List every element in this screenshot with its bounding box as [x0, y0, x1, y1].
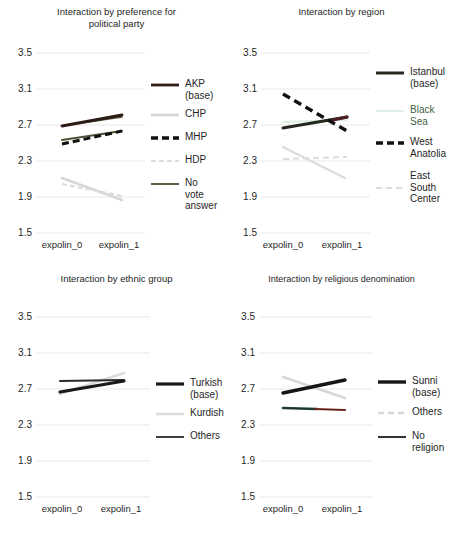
- legend-item-kurdish[interactable]: Kurdish: [155, 407, 224, 420]
- legend-label: East South Center: [410, 170, 440, 205]
- legend-label: No vote answer: [185, 177, 217, 212]
- y-tick-label: 1.5: [231, 227, 257, 238]
- gridlines: [36, 53, 145, 233]
- legend-label: CHP: [185, 108, 206, 120]
- gridlines: [259, 317, 373, 497]
- legend-item-istanbul[interactable]: Istanbul (base): [375, 66, 445, 89]
- legend-label: Sunni (base): [412, 375, 440, 398]
- plot-svg: [225, 267, 450, 534]
- legend-swatch-solid: [377, 431, 407, 443]
- y-tick-label: 3.1: [6, 347, 32, 358]
- legend-label: HDP: [185, 154, 206, 166]
- plot-svg: [225, 0, 450, 267]
- legend-swatch-solid: [150, 178, 180, 190]
- y-tick-label: 3.1: [229, 347, 255, 358]
- legend-item-chp[interactable]: CHP: [150, 108, 206, 121]
- y-tick-label: 1.9: [229, 455, 255, 466]
- plot-area: [0, 267, 225, 534]
- legend-label: Turkish (base): [190, 377, 222, 400]
- y-tick-label: 3.1: [6, 83, 32, 94]
- legend-swatch-solid: [375, 105, 405, 117]
- series-others: [60, 380, 124, 381]
- y-tick-label: 2.3: [231, 155, 257, 166]
- legend-label: West Anatolia: [410, 136, 446, 159]
- legend-item-turkish[interactable]: Turkish (base): [155, 377, 222, 400]
- y-tick-label: 1.9: [6, 455, 32, 466]
- legend-label: Istanbul (base): [410, 66, 445, 89]
- legend-item-no-vote-answer[interactable]: No vote answer: [150, 177, 217, 212]
- x-tick-label: expolin_0: [36, 239, 88, 250]
- plot-svg: [0, 267, 225, 534]
- legend-label: No religion: [412, 430, 444, 453]
- series-no-religion: [283, 408, 345, 410]
- legend-item-hdp[interactable]: HDP: [150, 154, 206, 167]
- legend-label: Others: [190, 430, 220, 442]
- y-tick-label: 2.7: [231, 119, 257, 130]
- legend-item-black-sea[interactable]: Black Sea: [375, 104, 434, 127]
- panel-religious-denomination: Interaction by religious denomination: [225, 267, 450, 534]
- y-tick-label: 2.7: [229, 383, 255, 394]
- legend-item-akp[interactable]: AKP (base): [150, 78, 213, 101]
- legend-label: Others: [412, 406, 442, 418]
- legend-label: AKP (base): [185, 78, 213, 101]
- legend-item-mhp[interactable]: MHP: [150, 131, 207, 144]
- y-tick-label: 1.5: [6, 227, 32, 238]
- legend-swatch-dashed: [150, 155, 180, 167]
- legend-item-sunni[interactable]: Sunni (base): [377, 375, 440, 398]
- legend-swatch-solid: [155, 378, 185, 390]
- x-tick-label: expolin_0: [257, 503, 309, 514]
- legend-item-others[interactable]: Others: [155, 430, 220, 443]
- y-tick-label: 3.5: [6, 47, 32, 58]
- legend-item-others[interactable]: Others: [377, 406, 442, 419]
- series-east-south-center-solid: [283, 147, 345, 178]
- legend-item-west-anatolia[interactable]: West Anatolia: [375, 136, 446, 159]
- y-tick-label: 3.5: [229, 311, 255, 322]
- legend-label: Kurdish: [190, 407, 224, 419]
- legend-swatch-dashed: [375, 137, 405, 149]
- legend-label: MHP: [185, 131, 207, 143]
- legend-swatch-solid: [377, 376, 407, 388]
- figure-grid: Interaction by preference for political …: [0, 0, 450, 535]
- series-sunni-base: [283, 380, 345, 393]
- y-tick-label: 1.5: [6, 491, 32, 502]
- x-tick-label: expolin_0: [36, 503, 88, 514]
- y-tick-label: 3.5: [231, 47, 257, 58]
- y-tick-label: 3.1: [231, 83, 257, 94]
- y-tick-label: 2.3: [6, 419, 32, 430]
- gridlines: [261, 53, 370, 233]
- y-tick-label: 2.7: [6, 119, 32, 130]
- legend-item-east-south-center[interactable]: East South Center: [375, 170, 440, 205]
- plot-area: [225, 0, 450, 267]
- panel-region: Interaction by region: [225, 0, 450, 267]
- y-tick-label: 2.3: [229, 419, 255, 430]
- y-tick-label: 2.3: [6, 155, 32, 166]
- y-tick-label: 3.5: [6, 311, 32, 322]
- legend-swatch-solid: [150, 79, 180, 91]
- legend-swatch-solid: [155, 431, 185, 443]
- legend-swatch-dashed: [375, 182, 405, 194]
- legend-label: Black Sea: [410, 104, 434, 127]
- panel-political-party: Interaction by preference for political …: [0, 0, 225, 267]
- y-tick-label: 2.7: [6, 383, 32, 394]
- series-east-south-center: [283, 157, 347, 159]
- y-tick-label: 1.9: [231, 191, 257, 202]
- legend-swatch-dashed: [377, 407, 407, 419]
- gridlines: [36, 317, 150, 497]
- legend-swatch-solid: [155, 408, 185, 420]
- legend-item-no-religion[interactable]: No religion: [377, 430, 444, 453]
- y-tick-label: 1.5: [229, 491, 255, 502]
- plot-area: [225, 267, 450, 534]
- x-tick-label: expolin_1: [316, 239, 368, 250]
- legend-swatch-solid: [375, 67, 405, 79]
- x-tick-label: expolin_1: [95, 503, 147, 514]
- legend-swatch-solid: [150, 109, 180, 121]
- x-tick-label: expolin_1: [93, 239, 145, 250]
- x-tick-label: expolin_1: [316, 503, 368, 514]
- y-tick-label: 1.9: [6, 191, 32, 202]
- legend-swatch-dashed: [150, 132, 180, 144]
- panel-ethnic-group: Interaction by ethnic group: [0, 267, 225, 534]
- series-akp-base: [62, 115, 122, 126]
- x-tick-label: expolin_0: [257, 239, 309, 250]
